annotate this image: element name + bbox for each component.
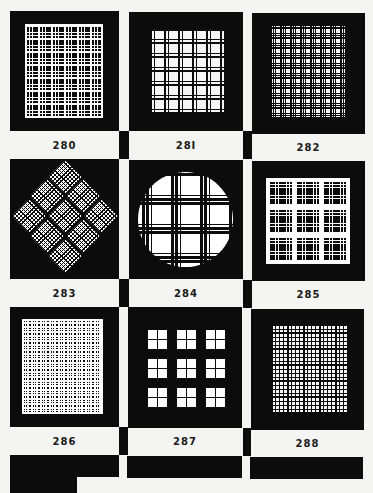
window-cell <box>177 330 196 349</box>
swatch-285 <box>252 161 365 281</box>
circle-pattern-284 <box>138 172 233 267</box>
plaid-pattern-282 <box>270 26 346 119</box>
gutter-label-row-1-left <box>119 131 129 159</box>
swatch-286 <box>10 307 119 427</box>
swatch-284 <box>129 160 243 279</box>
swatch-282 <box>252 13 365 134</box>
swatch-label-285: 285 <box>252 281 365 308</box>
window-cell <box>177 388 196 407</box>
plaid-block <box>270 238 292 260</box>
window-cell <box>148 388 167 407</box>
swatch-287 <box>128 307 242 428</box>
swatch-label-287: 287 <box>128 428 242 455</box>
plaid-pattern-280 <box>25 24 103 118</box>
window-cell <box>206 388 225 407</box>
next-row-strip-middle <box>127 456 242 478</box>
swatch-label-284: 284 <box>129 279 243 307</box>
window-cell <box>177 359 196 378</box>
swatch-288 <box>251 309 364 430</box>
plaid-block <box>297 210 319 232</box>
swatch-label-288: 288 <box>251 430 364 456</box>
swatch-283 <box>10 159 119 279</box>
corner-block <box>10 477 77 493</box>
plaid-block <box>324 210 346 232</box>
swatch-label-283: 283 <box>10 279 119 307</box>
plaid-block <box>270 210 292 232</box>
window-cell <box>148 359 167 378</box>
window-pattern-287 <box>141 322 229 412</box>
window-cell <box>206 330 225 349</box>
swatch-label-286: 286 <box>10 427 119 455</box>
swatch-280 <box>10 11 119 131</box>
plaid-block <box>270 182 292 204</box>
next-row-strip-right <box>250 457 363 479</box>
plaid-block <box>324 182 346 204</box>
swatch-label-282: 282 <box>252 134 365 161</box>
gutter-label-row-2-left <box>119 279 129 307</box>
swatch-label-281: 28I <box>129 131 243 159</box>
window-cell <box>148 330 167 349</box>
swatch-281 <box>129 12 243 131</box>
gutter-label-row-2-right <box>243 280 252 308</box>
next-row-strip-left <box>10 455 119 477</box>
plaid-pattern-286 <box>22 319 103 414</box>
plaid-block <box>297 182 319 204</box>
gutter-label-row-1-right <box>243 131 252 159</box>
plaid-block <box>324 238 346 260</box>
window-cell <box>206 359 225 378</box>
plaid-pattern-281 <box>150 31 224 114</box>
block-pattern-285 <box>266 178 350 264</box>
grid-pattern-288 <box>271 326 347 414</box>
swatch-label-280: 280 <box>10 131 119 159</box>
plaid-block <box>297 238 319 260</box>
